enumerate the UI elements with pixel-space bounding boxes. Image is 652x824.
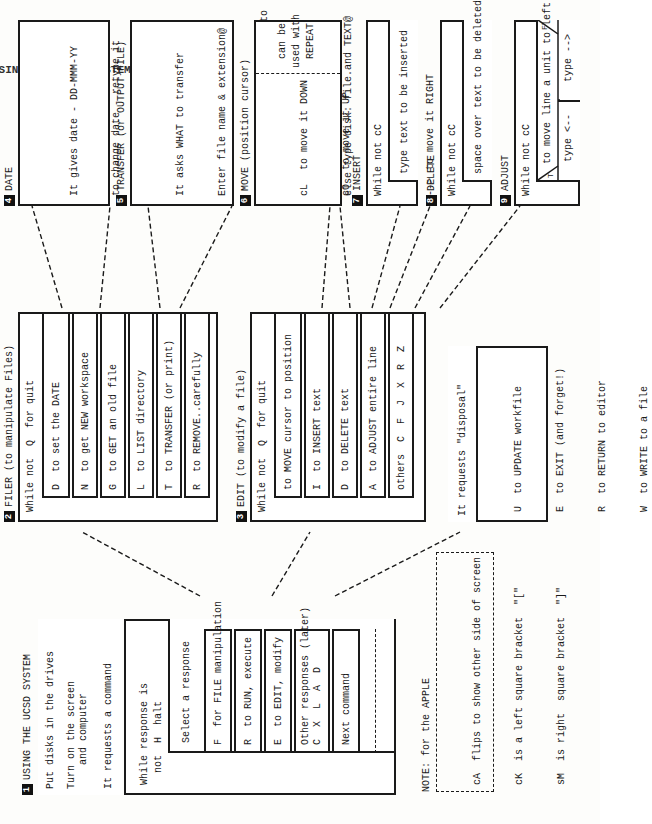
edit-option-others: others C F J X R Z (388, 312, 414, 498)
insert-condition: While not cC (372, 124, 386, 196)
section7-title: 7 INSERT (352, 155, 363, 206)
adjust-false-action: type --> (562, 34, 576, 82)
main-loop-body: Select a response F for FILE manipulatio… (168, 619, 394, 753)
edit-loop: While not Q for quit to MOVE cursor to p… (250, 312, 426, 522)
adjust-condition: While not cC (520, 124, 534, 196)
section4-title: 4 DATE (4, 167, 15, 206)
section2-title: 2 FILER (to manipulate Files) (4, 345, 15, 522)
adjust-loop: While not cC T F to move line a unit to … (514, 20, 580, 206)
note-lines: cA flips to show other side of screen cK… (443, 557, 597, 785)
section6-title: 6 MOVE (position cursor) (240, 59, 251, 206)
move-box: cL cO <-- --> to move it DOWN to move it… (254, 20, 342, 206)
move-divider (256, 73, 340, 74)
option-run: R to RUN, execute (234, 629, 262, 753)
adjust-if-true-label: T (544, 173, 558, 178)
note-title: NOTE: for the APPLE (420, 678, 434, 792)
section-number-badge: 1 (22, 784, 33, 795)
section8-title: 8 DELETE (426, 155, 437, 206)
note-box: cA flips to show other side of screen cK… (436, 552, 494, 792)
section3-title: 3 EDIT (to modify a file) (236, 369, 247, 522)
transfer-box: It asks WHAT to transfer Enter file name… (130, 20, 234, 206)
filer-option-date: D to set the DATE (42, 312, 70, 498)
date-box: It gives date - DD-MMM-YY to change date… (18, 20, 110, 206)
disposal-update: U to UPDATE workfile (512, 368, 526, 512)
filer-option-get: G to GET an old file (100, 312, 126, 498)
section9-title: 9 ADJUST (500, 155, 511, 206)
section-number-badge: 7 (352, 195, 363, 206)
adjust-true-action: type <-- (562, 114, 576, 162)
step-request-command: It requests a command (94, 619, 122, 795)
section-number-badge: 8 (426, 195, 437, 206)
move-repeat-note: can be used with REPEAT (276, 14, 318, 68)
filer-option-remove: R to REMOVE..carefully (184, 312, 210, 498)
insert-action: type text to be inserted (388, 20, 418, 182)
filer-loop-condition: While not Q for quit (24, 380, 38, 512)
section1-title: 1 USING THE UCSD SYSTEM (22, 654, 33, 795)
adjust-if-condition: to move line a unit to left (541, 2, 555, 164)
section-number-badge: 3 (236, 511, 247, 522)
filer-option-new: N to get NEW workspace (72, 312, 98, 498)
edit-option-move: to MOVE cursor to position (274, 312, 302, 498)
adjust-if: T F to move line a unit to left type <--… (536, 20, 580, 182)
edit-option-adjust: A to ADJUST entire line (360, 312, 386, 498)
adjust-branch-divider (558, 100, 580, 102)
delete-loop: While not cC space over text to be delet… (440, 20, 492, 206)
section-number-badge: 9 (500, 195, 511, 206)
disposal-write: W to WRITE to a file (638, 368, 652, 512)
step-turn-on: Turn on the screen and computer (62, 619, 96, 795)
filer-option-transfer: T to TRANSFER (or print) (156, 312, 182, 498)
option-edit: E to EDIT, modify (264, 629, 292, 753)
filer-option-list: L to LIST directory (128, 312, 154, 498)
select-response-label: Select a response (180, 641, 194, 743)
section5-title: 5 TRANSFER (or OUTPUT FILE) (116, 41, 127, 206)
loop-condition: While response is not H halt (138, 683, 166, 785)
main-loop: While response is not H halt Select a re… (124, 619, 396, 795)
delete-action: space over text to be deleted (462, 20, 492, 182)
section-number-badge: 5 (116, 195, 127, 206)
disposal-options: U to UPDATE workfile E to EXIT (and forg… (484, 368, 652, 512)
filer-loop: While not Q for quit D to set the DATE N… (18, 312, 218, 522)
option-file: F for FILE manipulation (204, 629, 232, 753)
edit-option-insert: I to INSERT text (304, 312, 330, 498)
option-other: Other responses (later) C X L A D (294, 629, 330, 753)
step-put-disks: Put disks in the drives (38, 619, 64, 795)
disposal-return: R to RETURN to editor (596, 368, 610, 512)
section-number-badge: 6 (240, 195, 251, 206)
delete-condition: While not cC (446, 124, 460, 196)
disposal-label: It requests "disposal" (448, 346, 478, 522)
disposal-exit: E to EXIT (and forget!) (554, 368, 568, 512)
disposal-block: It requests "disposal" U to UPDATE workf… (448, 346, 548, 522)
section-number-badge: 4 (4, 195, 15, 206)
section-number-badge: 2 (4, 511, 15, 522)
insert-loop: While not cC type text to be inserted (366, 20, 418, 206)
edit-option-delete: D to DELETE text (332, 312, 358, 498)
edit-loop-condition: While not Q for quit (256, 380, 270, 512)
next-command: Next command (332, 629, 360, 753)
section1-steps: Put disks in the drives Turn on the scre… (38, 619, 122, 795)
